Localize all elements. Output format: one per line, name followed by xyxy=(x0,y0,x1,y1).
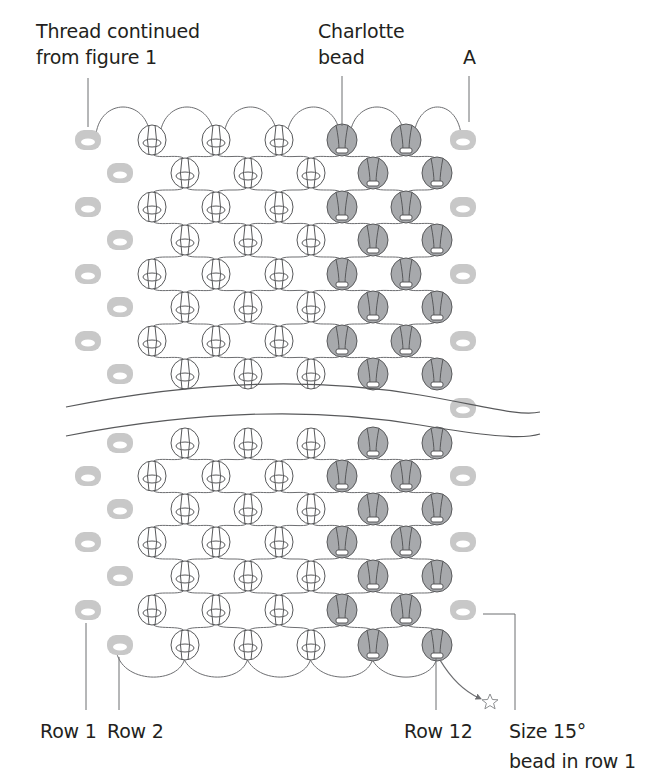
seed-bead xyxy=(265,527,293,557)
size15-end-bead xyxy=(75,264,101,284)
size15-label-line1: Size 15° xyxy=(509,718,636,744)
seed-bead xyxy=(297,158,325,188)
charlotte-bead xyxy=(358,358,388,390)
row2-label: Row 2 xyxy=(107,718,164,744)
seed-bead xyxy=(234,428,262,458)
star-icon xyxy=(482,694,498,709)
seed-bead xyxy=(202,192,230,222)
size15-end-bead xyxy=(450,197,476,217)
seed-bead xyxy=(234,292,262,322)
size15-label-line2: bead in row 1 xyxy=(509,748,636,774)
seed-bead xyxy=(297,561,325,591)
charlotte-bead xyxy=(422,427,452,459)
seed-bead xyxy=(202,461,230,491)
seed-bead xyxy=(297,428,325,458)
charlotte-bead xyxy=(327,325,357,357)
beading-diagram xyxy=(0,0,660,782)
seed-bead xyxy=(234,494,262,524)
seed-bead xyxy=(171,428,199,458)
seed-bead xyxy=(297,494,325,524)
charlotte-bead xyxy=(422,560,452,592)
size15-end-bead xyxy=(450,264,476,284)
seed-bead xyxy=(202,326,230,356)
charlotte-bead xyxy=(327,594,357,626)
size15-end-bead xyxy=(107,566,133,586)
point-a-label: A xyxy=(463,44,476,70)
charlotte-bead xyxy=(391,191,421,223)
seed-bead xyxy=(171,158,199,188)
size15-end-bead xyxy=(107,297,133,317)
seed-bead xyxy=(297,630,325,660)
charlotte-bead xyxy=(422,291,452,323)
seed-bead xyxy=(171,561,199,591)
charlotte-bead-label: Charlotte bead xyxy=(318,18,404,70)
seed-bead xyxy=(171,225,199,255)
seed-bead xyxy=(138,595,166,625)
charlotte-bead xyxy=(391,258,421,290)
thread-label-line2: from figure 1 xyxy=(36,44,200,70)
seed-bead xyxy=(265,461,293,491)
charlotte-bead xyxy=(358,291,388,323)
seed-bead xyxy=(265,125,293,155)
seed-bead xyxy=(138,461,166,491)
charlotte-label-line2: bead xyxy=(318,44,404,70)
size15-end-bead xyxy=(75,600,101,620)
size15-end-bead xyxy=(450,331,476,351)
seed-bead xyxy=(265,326,293,356)
charlotte-bead xyxy=(391,124,421,156)
seed-bead xyxy=(297,292,325,322)
seed-bead xyxy=(138,192,166,222)
size15-end-bead xyxy=(450,466,476,486)
charlotte-bead xyxy=(391,325,421,357)
row1-label: Row 1 xyxy=(40,718,97,744)
size15-leader xyxy=(483,614,515,710)
bead-grid xyxy=(75,124,476,661)
seed-bead xyxy=(202,527,230,557)
charlotte-bead xyxy=(391,460,421,492)
charlotte-bead xyxy=(422,157,452,189)
charlotte-bead xyxy=(327,460,357,492)
charlotte-bead xyxy=(422,629,452,661)
size15-end-bead xyxy=(75,197,101,217)
seed-bead xyxy=(234,561,262,591)
seed-bead xyxy=(202,595,230,625)
seed-bead xyxy=(138,527,166,557)
charlotte-bead xyxy=(358,427,388,459)
seed-bead xyxy=(234,630,262,660)
charlotte-bead xyxy=(422,493,452,525)
thread-label-line1: Thread continued xyxy=(36,18,200,44)
charlotte-bead xyxy=(327,124,357,156)
charlotte-bead xyxy=(358,224,388,256)
seed-bead xyxy=(171,630,199,660)
charlotte-bead xyxy=(327,526,357,558)
size15-label: Size 15° bead in row 1 xyxy=(509,718,636,774)
seed-bead xyxy=(234,158,262,188)
charlotte-bead xyxy=(422,358,452,390)
size15-end-bead xyxy=(75,466,101,486)
seed-bead xyxy=(138,326,166,356)
charlotte-bead xyxy=(358,493,388,525)
charlotte-bead xyxy=(391,526,421,558)
size15-end-bead xyxy=(450,532,476,552)
seed-bead xyxy=(234,225,262,255)
seed-bead xyxy=(265,259,293,289)
size15-end-bead xyxy=(450,600,476,620)
exit-arrow xyxy=(440,660,498,709)
seed-bead xyxy=(265,595,293,625)
size15-end-bead xyxy=(75,130,101,150)
charlotte-bead xyxy=(327,258,357,290)
size15-end-bead xyxy=(107,499,133,519)
seed-bead xyxy=(171,292,199,322)
seed-bead xyxy=(202,125,230,155)
seed-bead xyxy=(297,225,325,255)
charlotte-label-line1: Charlotte xyxy=(318,18,404,44)
size15-end-bead xyxy=(107,433,133,453)
size15-end-bead xyxy=(107,635,133,655)
size15-end-bead xyxy=(107,230,133,250)
size15-end-bead xyxy=(107,163,133,183)
charlotte-bead xyxy=(358,560,388,592)
seed-bead xyxy=(138,259,166,289)
size15-end-bead xyxy=(75,331,101,351)
size15-end-bead xyxy=(107,364,133,384)
charlotte-bead xyxy=(391,594,421,626)
